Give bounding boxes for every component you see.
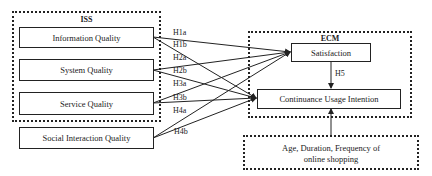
edge-h4b xyxy=(153,98,256,138)
edge-h3b xyxy=(153,98,256,103)
continuance-usage-intention-label: Continuance Usage Intention xyxy=(279,94,378,104)
iss-title: ISS xyxy=(14,15,159,24)
ecm-title: ECM xyxy=(250,34,410,43)
label-h4b: H4b xyxy=(174,128,188,136)
label-h2b: H2b xyxy=(173,67,187,75)
system-quality-box: System Quality xyxy=(19,59,154,81)
system-quality-label: System Quality xyxy=(60,65,113,75)
control-variables-text: Age, Duration, Frequency of online shopp… xyxy=(245,143,417,166)
social-interaction-quality-box: Social Interaction Quality xyxy=(19,127,154,149)
label-h2a: H2a xyxy=(173,54,186,62)
information-quality-label: Information Quality xyxy=(52,33,120,43)
control-variables-line2: online shopping xyxy=(245,154,417,165)
satisfaction-label: Satisfaction xyxy=(311,48,351,58)
service-quality-label: Service Quality xyxy=(60,99,113,109)
label-h4a: H4a xyxy=(173,107,186,115)
label-h1b: H1b xyxy=(173,41,187,49)
label-h5: H5 xyxy=(335,70,345,78)
label-h3b: H3b xyxy=(173,94,187,102)
label-h1a: H1a xyxy=(173,29,186,37)
control-variables-line1: Age, Duration, Frequency of xyxy=(245,143,417,154)
satisfaction-box: Satisfaction xyxy=(291,43,371,62)
service-quality-box: Service Quality xyxy=(19,92,154,115)
information-quality-box: Information Quality xyxy=(19,27,154,48)
control-variables-box: Age, Duration, Frequency of online shopp… xyxy=(243,135,419,170)
label-h3a: H3a xyxy=(173,80,186,88)
continuance-usage-intention-box: Continuance Usage Intention xyxy=(257,89,401,109)
social-interaction-quality-label: Social Interaction Quality xyxy=(43,133,131,143)
